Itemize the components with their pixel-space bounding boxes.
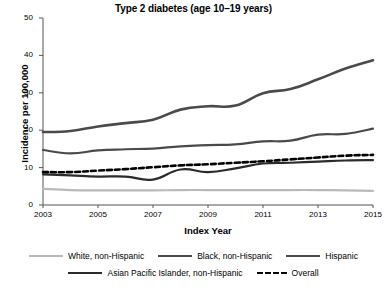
legend-item[interactable]: Asian Pacific Islander, non-Hispanic <box>68 268 242 278</box>
y-tick-label: 20 <box>11 125 33 134</box>
x-tick-label: 2003 <box>23 210 63 219</box>
legend-row-primary: White, non-HispanicBlack, non-HispanicHi… <box>0 247 387 264</box>
legend-color-swatch <box>286 255 320 257</box>
y-tick-label: 50 <box>11 13 33 22</box>
legend-label: Hispanic <box>325 251 358 261</box>
series-line <box>43 189 373 191</box>
x-tick-label: 2007 <box>133 210 173 219</box>
x-tick-label: 2013 <box>298 210 338 219</box>
chart-figure: Type 2 diabetes (age 10–19 years) Incide… <box>0 0 387 296</box>
legend-item[interactable]: Black, non-Hispanic <box>158 251 272 261</box>
legend-label: Black, non-Hispanic <box>197 251 272 261</box>
legend-row-secondary: Asian Pacific Islander, non-HispanicOver… <box>0 264 387 281</box>
x-tick-label: 2011 <box>243 210 283 219</box>
y-tick-label: 0 <box>11 200 33 209</box>
series-line <box>43 155 373 172</box>
legend-color-swatch <box>158 255 192 257</box>
legend-color-swatch <box>29 255 63 257</box>
legend-label: Overall <box>292 268 319 278</box>
x-tick-label: 2015 <box>353 210 387 219</box>
legend-item[interactable]: Overall <box>257 268 319 278</box>
y-axis-ticks <box>39 18 43 205</box>
x-tick-label: 2005 <box>78 210 118 219</box>
chart-legend: White, non-HispanicBlack, non-HispanicHi… <box>0 247 387 281</box>
y-tick-label: 30 <box>11 88 33 97</box>
legend-label: Asian Pacific Islander, non-Hispanic <box>107 268 242 278</box>
legend-color-swatch <box>68 272 102 274</box>
legend-label: White, non-Hispanic <box>68 251 144 261</box>
y-tick-label: 40 <box>11 50 33 59</box>
legend-item[interactable]: Hispanic <box>286 251 358 261</box>
data-series-group <box>43 60 373 191</box>
series-line <box>43 129 373 154</box>
legend-color-swatch <box>257 272 287 274</box>
y-tick-label: 10 <box>11 163 33 172</box>
series-line <box>43 60 373 132</box>
legend-item[interactable]: White, non-Hispanic <box>29 251 144 261</box>
x-tick-label: 2009 <box>188 210 228 219</box>
